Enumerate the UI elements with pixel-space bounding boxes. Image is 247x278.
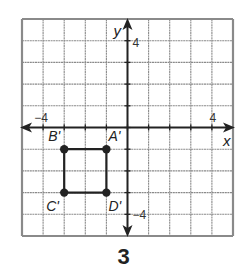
svg-text:C': C'	[46, 198, 60, 214]
coordinate-plane: yx4−4−44A'B'C'D'	[0, 0, 247, 278]
svg-text:D': D'	[108, 198, 122, 214]
svg-text:4: 4	[210, 111, 217, 125]
point-a-prime	[102, 145, 110, 153]
svg-text:B': B'	[48, 128, 61, 144]
svg-text:y: y	[113, 22, 123, 39]
point-d-prime	[102, 188, 110, 196]
figure-caption: 3	[0, 244, 247, 270]
svg-text:−4: −4	[34, 111, 48, 125]
svg-text:x: x	[222, 132, 231, 149]
point-b-prime	[60, 145, 68, 153]
svg-text:4: 4	[133, 36, 140, 50]
point-c-prime	[60, 188, 68, 196]
svg-text:A': A'	[107, 128, 121, 144]
svg-text:−4: −4	[133, 208, 147, 222]
